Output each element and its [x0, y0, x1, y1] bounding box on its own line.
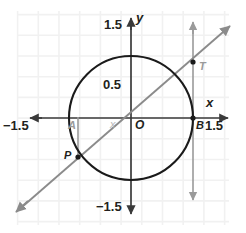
coordinate-plane-figure: 1.5 0.5 −1.5 −1.5 1.5 y x O A B P T x [0, 0, 246, 233]
point-t [190, 59, 195, 64]
x-tick-1point5: 1.5 [205, 119, 223, 132]
point-label-t: T [199, 61, 206, 72]
point-label-o: O [135, 119, 144, 131]
point-label-b: B [196, 120, 204, 131]
point-p [75, 154, 80, 159]
point-label-a: A [68, 120, 76, 131]
y-tick-negative-1point5: −1.5 [96, 200, 122, 213]
variable-label-x: x [110, 119, 116, 130]
x-axis-label: x [206, 96, 213, 109]
point-label-p: P [64, 150, 71, 161]
y-axis-label: y [136, 11, 143, 24]
y-tick-0point5: 0.5 [103, 78, 121, 91]
diagram-canvas [0, 0, 246, 233]
x-tick-negative-1point5: −1.5 [3, 119, 29, 132]
y-tick-1point5: 1.5 [104, 18, 122, 31]
point-b [190, 115, 195, 120]
